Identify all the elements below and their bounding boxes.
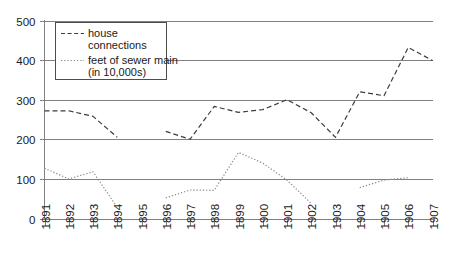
x-axis-tick-labels: 1891189218931894189518961897189818991900… xyxy=(40,203,440,229)
chart-canvas: 0100200300400500 18911892189318941895189… xyxy=(0,0,449,265)
y-axis-tick-labels: 0100200300400500 xyxy=(16,16,35,226)
legend-label-house-connections-line1: house xyxy=(88,27,118,39)
chart-legend: house connections feet of sewer main (in… xyxy=(56,23,178,80)
x-tick-label-1907: 1907 xyxy=(428,204,440,230)
x-tick-label-1896: 1896 xyxy=(161,204,173,230)
y-tick-label-500: 500 xyxy=(16,16,35,28)
x-tick-label-1894: 1894 xyxy=(112,203,124,229)
series-line-feet-of-sewer-main-seg1 xyxy=(166,152,312,203)
legend-label-feet-of-sewer-main-line1: feet of sewer main xyxy=(88,54,178,66)
x-tick-label-1898: 1898 xyxy=(209,204,221,230)
y-tick-label-300: 300 xyxy=(16,95,35,107)
x-tick-label-1895: 1895 xyxy=(137,204,149,230)
series-line-feet-of-sewer-main-seg0 xyxy=(45,168,118,207)
x-tick-label-1893: 1893 xyxy=(88,204,100,230)
x-tick-label-1905: 1905 xyxy=(379,204,391,230)
x-tick-label-1900: 1900 xyxy=(258,204,270,230)
y-tick-label-100: 100 xyxy=(16,174,35,186)
line-chart: 0100200300400500 18911892189318941895189… xyxy=(0,0,449,265)
x-tick-label-1904: 1904 xyxy=(355,203,367,229)
y-tick-label-200: 200 xyxy=(16,134,35,146)
series-line-house-connections-seg1 xyxy=(166,47,433,139)
legend-label-feet-of-sewer-main-line2: (in 10,000s) xyxy=(88,66,146,78)
x-tick-label-1892: 1892 xyxy=(64,204,76,230)
x-tick-label-1903: 1903 xyxy=(331,204,343,230)
x-tick-label-1899: 1899 xyxy=(234,204,246,230)
x-tick-label-1891: 1891 xyxy=(40,204,52,230)
legend-label-house-connections-line2: connections xyxy=(88,39,147,51)
x-tick-label-1902: 1902 xyxy=(306,204,318,230)
x-tick-label-1897: 1897 xyxy=(185,204,197,230)
y-tick-label-400: 400 xyxy=(16,55,35,67)
x-tick-label-1901: 1901 xyxy=(282,204,294,230)
y-axis-ticks xyxy=(40,22,45,220)
series-line-house-connections-seg0 xyxy=(45,111,118,138)
x-tick-label-1906: 1906 xyxy=(403,204,415,230)
y-tick-label-0: 0 xyxy=(29,214,35,226)
